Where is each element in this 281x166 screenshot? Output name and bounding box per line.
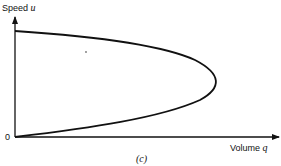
y-axis-title: Speed [2,3,28,13]
x-axis-variable: q [263,142,268,153]
figure-caption: (c) [136,153,147,164]
speed-volume-curve [15,31,216,137]
origin-label: 0 [5,132,10,142]
stray-dot [85,51,87,53]
y-axis-variable: u [31,2,36,13]
x-axis-label: Volume q [230,142,268,153]
y-axis-label: Speed u [2,2,36,13]
x-axis-title: Volume [230,143,260,153]
